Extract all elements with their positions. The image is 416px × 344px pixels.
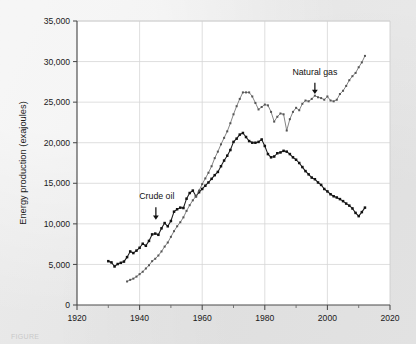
data-point bbox=[351, 75, 353, 77]
data-point bbox=[107, 260, 110, 263]
data-point bbox=[204, 177, 206, 179]
data-point bbox=[229, 122, 231, 124]
data-point bbox=[326, 190, 329, 193]
data-point bbox=[323, 99, 325, 101]
data-point bbox=[126, 280, 128, 282]
data-point bbox=[276, 116, 278, 118]
data-point bbox=[336, 99, 338, 101]
y-tick-label: 30,000 bbox=[44, 57, 71, 67]
data-point bbox=[173, 230, 175, 232]
data-point bbox=[151, 260, 153, 262]
data-point bbox=[170, 236, 172, 238]
data-point bbox=[339, 198, 342, 201]
data-point bbox=[232, 141, 235, 144]
data-point bbox=[307, 173, 310, 176]
data-point bbox=[242, 132, 245, 135]
data-point bbox=[239, 98, 241, 100]
data-point bbox=[213, 174, 216, 177]
data-point bbox=[207, 172, 209, 174]
data-point bbox=[204, 184, 207, 187]
data-point bbox=[348, 79, 350, 81]
data-point bbox=[286, 130, 288, 132]
data-point bbox=[295, 107, 297, 109]
data-point bbox=[226, 154, 229, 157]
data-point bbox=[176, 208, 179, 211]
y-tick-label: 25,000 bbox=[44, 97, 71, 107]
data-point bbox=[251, 141, 254, 144]
data-point bbox=[210, 178, 213, 181]
data-point bbox=[233, 113, 235, 115]
data-point bbox=[267, 104, 269, 106]
y-tick-label: 35,000 bbox=[44, 16, 71, 26]
data-point bbox=[273, 121, 275, 123]
annotation-label: Crude oil bbox=[139, 191, 174, 201]
y-tick-label: 15,000 bbox=[44, 178, 71, 188]
data-point bbox=[270, 111, 272, 113]
data-point bbox=[198, 190, 200, 192]
data-point bbox=[345, 85, 347, 87]
data-point bbox=[330, 100, 332, 102]
data-point bbox=[342, 200, 345, 203]
data-point bbox=[279, 113, 281, 115]
data-point bbox=[260, 138, 263, 141]
data-point bbox=[151, 233, 154, 236]
data-point bbox=[195, 195, 197, 197]
data-point bbox=[283, 113, 285, 115]
data-point bbox=[245, 136, 248, 139]
y-axis-title: Energy production (exajoules) bbox=[18, 101, 28, 225]
data-point bbox=[142, 271, 144, 273]
data-point bbox=[236, 105, 238, 107]
data-point bbox=[179, 221, 181, 223]
data-point bbox=[304, 170, 307, 173]
data-point bbox=[248, 91, 250, 93]
data-point bbox=[157, 234, 160, 237]
data-point bbox=[251, 95, 253, 97]
data-point bbox=[298, 109, 300, 111]
data-point bbox=[264, 104, 266, 106]
data-point bbox=[361, 61, 363, 63]
energy-production-chart: 05,00010,00015,00020,00025,00030,00035,0… bbox=[0, 0, 416, 344]
data-point bbox=[148, 240, 151, 243]
data-point bbox=[242, 91, 244, 93]
data-point bbox=[298, 162, 301, 165]
data-point bbox=[141, 242, 144, 245]
data-point bbox=[254, 102, 256, 104]
data-point bbox=[267, 153, 270, 156]
data-point bbox=[126, 256, 129, 259]
data-point bbox=[348, 204, 351, 207]
x-tick-label: 1980 bbox=[255, 313, 274, 323]
data-point bbox=[179, 206, 182, 209]
data-point bbox=[189, 204, 191, 206]
data-point bbox=[148, 264, 150, 266]
data-point bbox=[129, 279, 131, 281]
data-point bbox=[342, 90, 344, 92]
data-point bbox=[145, 245, 148, 248]
data-point bbox=[123, 260, 126, 263]
data-point bbox=[188, 192, 191, 195]
data-point bbox=[248, 140, 251, 143]
data-point bbox=[314, 95, 316, 97]
data-point bbox=[351, 207, 354, 210]
data-point bbox=[167, 242, 169, 244]
data-point bbox=[217, 171, 220, 174]
data-point bbox=[120, 262, 123, 265]
data-point bbox=[217, 151, 219, 153]
data-point bbox=[154, 258, 156, 260]
data-point bbox=[345, 202, 348, 205]
data-point bbox=[273, 155, 276, 158]
data-point bbox=[285, 150, 288, 153]
data-point bbox=[317, 96, 319, 98]
data-point bbox=[336, 196, 339, 199]
data-point bbox=[264, 145, 267, 148]
data-point bbox=[317, 181, 320, 184]
data-point bbox=[211, 165, 213, 167]
data-point bbox=[223, 159, 226, 162]
data-point bbox=[170, 220, 173, 223]
data-point bbox=[220, 143, 222, 145]
data-point bbox=[301, 103, 303, 105]
data-point bbox=[245, 91, 247, 93]
data-point bbox=[145, 267, 147, 269]
data-point bbox=[129, 250, 132, 253]
data-point bbox=[314, 178, 317, 181]
data-point bbox=[207, 181, 210, 184]
